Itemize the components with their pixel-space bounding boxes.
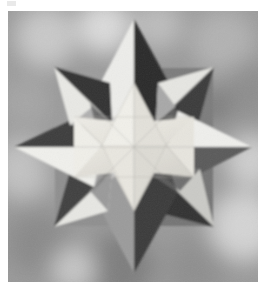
corner-artifact-mark	[7, 1, 16, 6]
photograph-canvas	[8, 11, 258, 282]
photograph-frame	[8, 11, 258, 282]
page-root	[0, 0, 264, 292]
